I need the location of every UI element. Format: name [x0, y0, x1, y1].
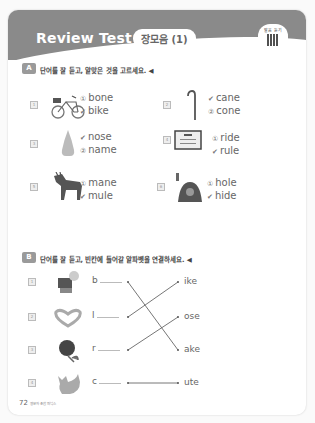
- suffix-ike[interactable]: ike: [184, 276, 197, 286]
- cat-icon: [56, 372, 82, 396]
- matching-lines: [8, 10, 306, 415]
- baker-icon: [56, 270, 80, 294]
- item-number: 4: [28, 379, 36, 387]
- blank-c[interactable]: c: [92, 376, 121, 386]
- suffix-ake[interactable]: ake: [184, 344, 200, 354]
- suffix-ute[interactable]: ute: [184, 377, 199, 387]
- blank-r[interactable]: r: [92, 343, 120, 353]
- blank-l[interactable]: l: [92, 310, 119, 320]
- blank-b[interactable]: b: [92, 275, 122, 285]
- heart-hands-icon: [52, 308, 84, 328]
- item-number: 2: [28, 313, 36, 321]
- item-number: 1: [28, 278, 36, 286]
- item-number: 3: [28, 346, 36, 354]
- rose-icon: [56, 338, 82, 364]
- page-footer: 72 영문자 조합 파닉스: [19, 399, 56, 407]
- suffix-ose[interactable]: ose: [184, 311, 200, 321]
- page-number: 72: [19, 399, 28, 407]
- worksheet-page: Review Test [3] 장모음 (1) 발음 듣기 A 단어를 잘 듣고…: [8, 10, 306, 415]
- book-title: 영문자 조합 파닉스: [30, 402, 56, 406]
